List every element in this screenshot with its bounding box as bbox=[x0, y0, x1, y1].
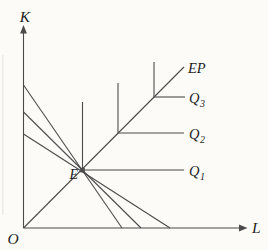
isoquant-q1-label-subscript: 1 bbox=[200, 171, 205, 182]
expansion-path-label: EP bbox=[187, 60, 206, 76]
x-axis-label: L bbox=[251, 219, 261, 236]
origin-label: O bbox=[7, 230, 18, 247]
isoquant-q3-label-subscript: 3 bbox=[199, 98, 205, 109]
isoquant-q2-label: Q bbox=[189, 126, 200, 142]
y-axis-label: K bbox=[19, 8, 31, 25]
diagram-canvas: K L O EP E Q 3 Q 2 Q 1 bbox=[0, 0, 268, 250]
scan-artifact bbox=[2, 55, 4, 215]
isoquant-q1-label: Q bbox=[189, 163, 200, 179]
isoquant-expansion-path-diagram: K L O EP E Q 3 Q 2 Q 1 bbox=[0, 0, 268, 250]
isoquant-q2-label-subscript: 2 bbox=[200, 134, 205, 145]
diagram-background bbox=[0, 0, 268, 250]
equilibrium-point-marker bbox=[80, 168, 85, 173]
isoquant-q3-label: Q bbox=[189, 90, 200, 106]
equilibrium-point-label: E bbox=[68, 167, 78, 182]
